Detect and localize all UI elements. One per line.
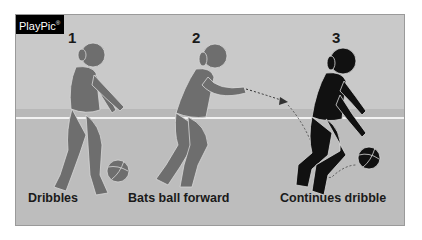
step-number-1: 1 xyxy=(68,29,76,46)
basketball-1 xyxy=(107,160,129,182)
caption-step-1: Dribbles xyxy=(28,191,78,205)
ball-path-arrow xyxy=(246,89,284,101)
player-2-figure xyxy=(156,44,246,187)
step-number-3: 3 xyxy=(332,29,340,46)
caption-step-3: Continues dribble xyxy=(280,191,386,205)
playpic-logo: PlayPic® xyxy=(16,15,64,34)
player-3-figure xyxy=(296,48,366,195)
basketball-3 xyxy=(358,147,380,169)
step-number-2: 2 xyxy=(192,29,200,46)
logo-text: PlayPic xyxy=(19,20,56,32)
caption-step-2: Bats ball forward xyxy=(128,191,229,205)
registered-mark: ® xyxy=(56,20,60,26)
illustration-frame: PlayPic® 1 2 3 Dribbles Bats ball forwar… xyxy=(15,14,405,226)
